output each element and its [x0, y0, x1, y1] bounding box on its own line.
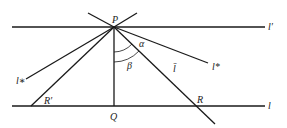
label-r-prime: R′	[43, 95, 53, 106]
label-alpha: α	[139, 38, 145, 49]
geometry-diagram: P Q R R′ l′ l l̄ l* l∗ α β	[0, 0, 287, 128]
label-l-star-lower: l∗	[16, 75, 26, 86]
label-l-bar: l̄	[173, 63, 177, 74]
label-l-prime: l′	[268, 21, 274, 32]
label-l: l	[268, 100, 271, 111]
label-p: P	[111, 14, 118, 25]
ray-upper-left	[88, 13, 114, 27]
line-l-star-upper	[114, 27, 208, 63]
label-beta: β	[126, 60, 132, 71]
angle-alpha-arc	[114, 44, 132, 52]
line-l-star-lower	[26, 27, 114, 79]
label-l-star-upper: l*	[212, 61, 220, 72]
line-l-bar	[114, 27, 215, 124]
label-q: Q	[110, 111, 118, 122]
label-r: R	[196, 94, 203, 105]
